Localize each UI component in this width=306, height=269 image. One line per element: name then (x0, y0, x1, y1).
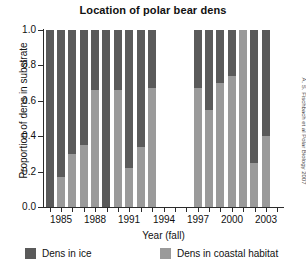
x-tick (61, 208, 62, 212)
bar-1991 (125, 30, 133, 207)
bar-2000 (228, 30, 236, 207)
source-credit: A. S. Fischbach et al Polar Biology 2007 (301, 56, 306, 206)
bar-1998 (205, 30, 213, 207)
legend-item-coastal: Dens in coastal habitat (160, 248, 278, 259)
y-tick (38, 101, 43, 102)
bar-1988 (91, 30, 99, 207)
bar-segment-coastal (194, 88, 202, 207)
y-tick (38, 65, 43, 66)
x-tick (141, 208, 142, 212)
bar-segment-coastal (228, 76, 236, 207)
bar-segment-coastal (137, 147, 145, 207)
bar-segment-coastal (68, 154, 76, 207)
bar-segment-ice (137, 30, 145, 147)
x-tick (243, 208, 244, 212)
bar-segment-ice (125, 30, 133, 168)
bar-1992 (137, 30, 145, 207)
bar-segment-ice (148, 30, 156, 88)
bar-segment-ice (262, 30, 270, 136)
x-tick (50, 208, 51, 212)
bar-segment-ice (250, 30, 258, 163)
legend-swatch-coastal (160, 248, 171, 259)
bar-1986 (68, 30, 76, 207)
bar-1985 (57, 30, 65, 207)
bar-1987 (80, 30, 88, 207)
x-tick (186, 208, 187, 212)
y-tick (38, 172, 43, 173)
bar-2002 (250, 30, 258, 207)
bar-segment-coastal (239, 30, 247, 207)
chart-figure: Location of polar bear dens Proportion o… (0, 0, 306, 269)
x-tick (175, 208, 176, 212)
bar-segment-ice (114, 30, 122, 90)
bar-segment-ice (46, 30, 54, 207)
y-tick-label: 0.0 (6, 202, 36, 212)
bar-1990 (114, 30, 122, 207)
bar-segment-coastal (80, 145, 88, 207)
chart-legend: Dens in ice Dens in coastal habitat (0, 248, 306, 266)
bar-segment-ice (57, 30, 65, 177)
bar-segment-coastal (91, 90, 99, 207)
bar-segment-coastal (262, 136, 270, 207)
chart-title: Location of polar bear dens (0, 4, 306, 16)
x-tick (232, 208, 233, 212)
bar-segment-coastal (250, 163, 258, 207)
bar-segment-ice (216, 30, 224, 83)
legend-label-coastal: Dens in coastal habitat (177, 248, 278, 259)
bar-segment-ice (80, 30, 88, 145)
bar-segment-ice (91, 30, 99, 90)
y-tick (38, 30, 43, 31)
bar-segment-ice (228, 30, 236, 76)
legend-item-ice: Dens in ice (25, 248, 91, 259)
x-tick (266, 208, 267, 212)
bar-segment-ice (205, 30, 213, 110)
x-tick (198, 208, 199, 212)
x-tick-label: 1991 (109, 214, 149, 225)
y-tick-label: 0.8 (6, 60, 36, 70)
x-tick-label: 2003 (246, 214, 286, 225)
bar-segment-coastal (205, 110, 213, 207)
x-tick (220, 208, 221, 212)
x-tick (209, 208, 210, 212)
bar-segment-coastal (114, 90, 122, 207)
bar-1997 (194, 30, 202, 207)
y-tick-label: 0.6 (6, 96, 36, 106)
x-tick (107, 208, 108, 212)
bar-2003 (262, 30, 270, 207)
y-tick (38, 136, 43, 137)
x-tick (255, 208, 256, 212)
x-tick (95, 208, 96, 212)
bar-segment-ice (102, 30, 110, 207)
bar-1993 (148, 30, 156, 207)
legend-label-ice: Dens in ice (42, 248, 91, 259)
y-tick-label: 1.0 (6, 25, 36, 35)
plot-area (44, 30, 283, 207)
x-tick (277, 208, 278, 212)
x-tick (84, 208, 85, 212)
y-tick-label: 0.4 (6, 131, 36, 141)
bar-2001 (239, 30, 247, 207)
x-tick (118, 208, 119, 212)
x-tick (164, 208, 165, 212)
x-tick (129, 208, 130, 212)
x-axis-label: Year (fall) (44, 230, 283, 241)
x-tick (152, 208, 153, 212)
bar-segment-coastal (125, 168, 133, 207)
bar-segment-coastal (216, 83, 224, 207)
y-tick-label: 0.2 (6, 167, 36, 177)
bar-segment-ice (68, 30, 76, 154)
bar-segment-coastal (57, 177, 65, 207)
y-tick (38, 207, 43, 208)
bar-1984 (46, 30, 54, 207)
bar-segment-coastal (148, 88, 156, 207)
bar-1989 (102, 30, 110, 207)
x-tick (72, 208, 73, 212)
legend-swatch-ice (25, 248, 36, 259)
bar-1999 (216, 30, 224, 207)
bar-segment-ice (194, 30, 202, 88)
